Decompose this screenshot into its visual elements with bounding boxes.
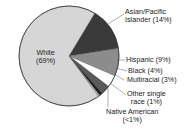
label-other-pct: race (1%) — [127, 98, 166, 106]
label-asian: Asian/Pacific Islander (14%) — [125, 8, 172, 24]
label-black: Black (4%) — [128, 67, 163, 75]
label-native-pct: (<1%) — [106, 116, 158, 124]
label-white-pct: (69%) — [36, 57, 55, 65]
label-multiracial: Multiracial (3%) — [127, 76, 177, 84]
leader-other — [110, 83, 126, 95]
label-hispanic: Hispanic (9%) — [126, 56, 171, 64]
label-white: White (69%) — [36, 49, 55, 65]
label-native: Native American (<1%) — [106, 108, 158, 124]
label-asian-pct: Islander (14%) — [125, 16, 172, 24]
leader-asian — [108, 14, 124, 24]
label-other: Other single race (1%) — [127, 90, 166, 106]
